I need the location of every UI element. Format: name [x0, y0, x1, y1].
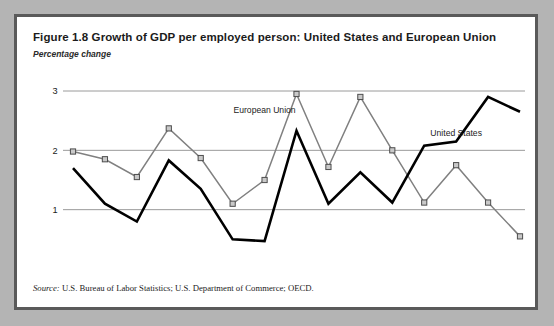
data-point-marker [230, 201, 235, 206]
figure-subtitle: Percentage change [33, 49, 111, 59]
data-series-group [73, 94, 520, 241]
source-note: Source: U.S. Bureau of Labor Statistics;… [33, 283, 314, 293]
series-annotations: European UnionUnited States [234, 105, 482, 138]
figure-panel: Figure 1.8 Growth of GDP per employed pe… [14, 14, 538, 310]
data-point-marker [517, 234, 522, 239]
data-point-marker [262, 177, 267, 182]
y-axis-tick-labels: 0123 [52, 86, 57, 266]
data-point-marker [454, 163, 459, 168]
data-point-marker [134, 174, 139, 179]
gridlines-group [63, 91, 525, 266]
data-point-marker [70, 149, 75, 154]
y-tick-label: 1 [52, 205, 57, 215]
data-point-marker [326, 164, 331, 169]
data-point-marker [102, 157, 107, 162]
data-point-marker [485, 200, 490, 205]
source-text: U.S. Bureau of Labor Statistics; U.S. De… [60, 283, 314, 293]
data-point-marker [294, 91, 299, 96]
figure-inner: Figure 1.8 Growth of GDP per employed pe… [17, 17, 535, 307]
chart-plot-area: 0123 European UnionUnited States 1985198… [17, 61, 535, 266]
data-point-marker [198, 155, 203, 160]
data-point-marker [166, 126, 171, 131]
line-chart-svg: 0123 European UnionUnited States 1985198… [17, 61, 535, 266]
data-point-marker [358, 94, 363, 99]
series-annotation: United States [430, 128, 482, 138]
source-label: Source: [33, 283, 60, 293]
y-tick-label: 0 [52, 264, 57, 266]
y-tick-label: 2 [52, 146, 57, 156]
series-annotation: European Union [234, 105, 296, 115]
data-point-marker [390, 148, 395, 153]
data-point-marker [422, 200, 427, 205]
y-tick-label: 3 [52, 86, 57, 96]
figure-title: Figure 1.8 Growth of GDP per employed pe… [33, 31, 496, 43]
